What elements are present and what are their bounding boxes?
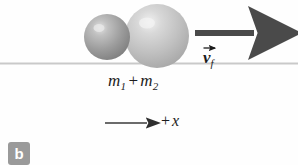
sphere-large-m2 [125,4,189,68]
plus-operator: + [126,71,140,90]
mass-1-symbol: m [108,71,121,90]
sphere-small-highlight [94,24,105,32]
mass-2-subscript: 2 [153,80,159,92]
mass-2-symbol: m [140,71,153,90]
label-positive-x-axis: +x [159,113,179,129]
vector-arrow-accent [203,44,218,51]
velocity-subscript: f [211,57,214,69]
label-final-velocity: vf [203,44,214,69]
panel-label-badge: b [8,142,30,165]
collision-diagram-panel-b: m1+m2 vf +x b [0,0,298,165]
sphere-small-m1 [84,14,130,60]
label-combined-mass: m1+m2 [108,72,159,92]
sphere-large-highlight [139,18,155,29]
axis-variable: x [172,112,179,129]
axis-plus-sign: + [159,112,172,129]
vector-symbol-group: vf [203,44,214,69]
